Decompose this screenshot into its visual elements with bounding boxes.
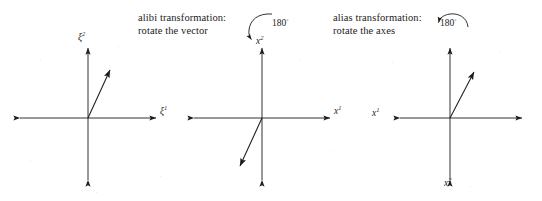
paper-speck bbox=[500, 52, 501, 53]
paper-speck bbox=[470, 186, 471, 187]
caption-alibi-line2: rotate the vector bbox=[138, 25, 226, 38]
paper-speck bbox=[160, 176, 161, 177]
angle-label-alias: 180◦ bbox=[440, 18, 457, 28]
axis-label-x2-panel3: x2 bbox=[444, 178, 451, 188]
panel-alias-vector bbox=[450, 72, 474, 118]
figure-canvas: ξ1 ξ2 alibi transformation: rotate the v… bbox=[0, 0, 542, 201]
paper-speck bbox=[392, 62, 393, 63]
paper-speck bbox=[118, 46, 119, 47]
panel-alias-axes bbox=[400, 48, 522, 180]
axis-label-x2-panel2: x2 bbox=[256, 36, 263, 46]
caption-alias-line1: alias transformation: bbox=[333, 12, 422, 25]
axis-label-xi2-panel1: ξ2 bbox=[78, 32, 85, 42]
caption-alias-line2: rotate the axes bbox=[333, 25, 422, 38]
paper-speck bbox=[40, 60, 41, 61]
caption-alibi-line1: alibi transformation: bbox=[138, 12, 226, 25]
panel-original-axes bbox=[20, 48, 156, 180]
caption-alibi: alibi transformation: rotate the vector bbox=[138, 12, 226, 37]
paper-speck bbox=[30, 160, 31, 161]
paper-speck bbox=[330, 150, 331, 151]
angle-label-alibi: 180◦ bbox=[272, 18, 289, 28]
paper-speck bbox=[300, 60, 301, 61]
axis-label-x1-panel2: x1 bbox=[334, 106, 341, 116]
caption-alias: alias transformation: rotate the axes bbox=[333, 12, 422, 37]
axis-label-xi1-panel1: ξ1 bbox=[160, 106, 167, 116]
axis-label-x1-panel3: x1 bbox=[372, 108, 379, 118]
panel-alibi-vector bbox=[240, 118, 262, 166]
panel-original-vector bbox=[88, 70, 110, 118]
panel-alibi-axes bbox=[194, 48, 330, 180]
paper-speck bbox=[96, 192, 97, 193]
